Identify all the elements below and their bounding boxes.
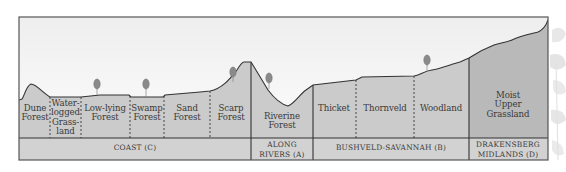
zone-label-scarp-forest: Scarp Forest (217, 104, 244, 123)
region-label-coast: COAST (C) (114, 143, 157, 153)
zone-label-thornveld: Thornveld (363, 104, 406, 113)
zone-label-moist-upper-grassland: Moist Upper Grassland (487, 91, 530, 119)
zone-label-waterlogged-grassland: Water- logged Grass- land (51, 99, 80, 137)
region-label-bushveld-savannah: BUSHVELD-SAVANNAH (B) (336, 143, 446, 153)
region-label-drakensberg-midlands: DRAKENSBERG MIDLANDS (D) (476, 140, 540, 159)
zone-label-riverine-forest: Riverine Forest (264, 112, 300, 131)
zone-label-sand-forest: Sand Forest (173, 104, 200, 123)
zone-label-woodland: Woodland (420, 104, 462, 113)
vegetation-profile-diagram: Dune Forest Water- logged Grass- land Lo… (0, 0, 566, 172)
zone-label-thicket: Thicket (318, 104, 350, 113)
decorative-foliage (550, 28, 566, 160)
zone-label-dune-forest: Dune Forest (21, 104, 48, 123)
region-label-along-rivers: ALONG RIVERS (A) (259, 140, 304, 159)
zone-label-low-lying-forest: Low-lying Forest (84, 104, 126, 123)
zone-label-swamp-forest: Swamp Forest (131, 104, 163, 123)
